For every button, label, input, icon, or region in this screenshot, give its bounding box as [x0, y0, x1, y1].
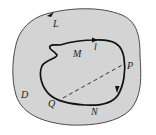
label-n: N	[90, 106, 99, 117]
label-d: D	[20, 89, 29, 100]
outer-region	[13, 9, 141, 125]
label-p: P	[126, 60, 133, 71]
label-l-outer: L	[52, 18, 59, 29]
label-q: Q	[48, 98, 56, 109]
label-l-inner: l	[94, 41, 97, 52]
diagram-canvas: L M l P D Q N	[0, 0, 156, 135]
label-m: M	[72, 48, 82, 59]
diagram: L M l P D Q N	[0, 0, 156, 135]
